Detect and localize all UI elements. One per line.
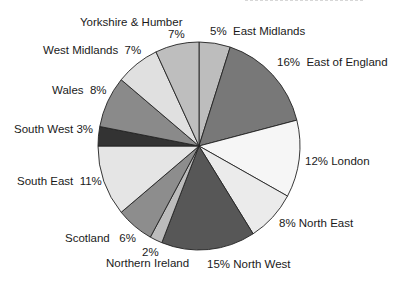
label-north-west: 15% North West [207, 258, 291, 271]
pie-chart [0, 0, 402, 286]
label-south-east: South East 11% [17, 175, 102, 188]
label-east-of-england: 16% East of England [277, 56, 388, 69]
label-north-east: 8% North East [279, 217, 353, 230]
label-west-midlands: West Midlands 7% [43, 44, 141, 57]
label-yorkshire-pct: 7% [168, 28, 185, 41]
pie-slices [98, 42, 300, 250]
label-east-midlands: 5% East Midlands [210, 25, 305, 38]
label-wales: Wales 8% [52, 84, 107, 97]
label-northern-ireland-name: Northern Ireland [106, 257, 189, 270]
label-london: 12% London [305, 155, 370, 168]
label-scotland: Scotland 6% [65, 232, 136, 245]
label-south-west: South West 3% [14, 123, 93, 136]
